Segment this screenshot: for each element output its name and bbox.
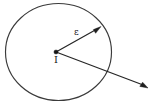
long-ray-arrowhead-icon — [140, 82, 148, 88]
short-ray-arrowhead-icon — [93, 27, 101, 34]
figure-canvas: ε I — [0, 0, 155, 105]
long-ray-line — [56, 52, 145, 86]
geometry-diagram — [0, 0, 155, 105]
angle-label-epsilon: ε — [74, 28, 79, 37]
vertex-label-i: I — [54, 55, 58, 65]
circle-outline — [6, 4, 112, 101]
